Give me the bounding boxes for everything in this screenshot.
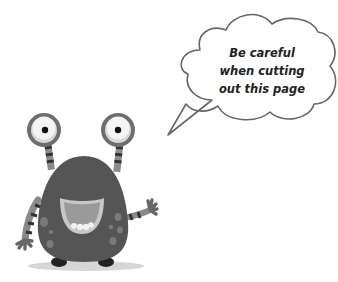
left-eye — [27, 113, 61, 147]
right-arm — [124, 200, 157, 220]
left-pupil — [42, 127, 48, 133]
right-eye — [101, 113, 135, 147]
left-arm — [17, 200, 41, 249]
ground-shadow — [28, 261, 144, 271]
speech-bubble-text: Be careful when cutting out this page — [200, 44, 324, 98]
speech-line-3: out this page — [200, 80, 324, 98]
left-hand — [17, 240, 32, 249]
speech-line-1: Be careful — [200, 44, 324, 62]
speech-line-2: when cutting — [200, 62, 324, 80]
illustration-canvas — [0, 0, 338, 282]
right-pupil — [115, 127, 121, 133]
monster — [17, 113, 157, 271]
